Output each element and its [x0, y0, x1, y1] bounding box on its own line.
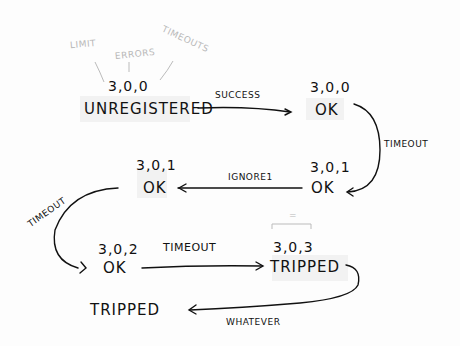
node-unregistered-tuple: 3,0,0 [108, 79, 149, 93]
edge-label-success: SUCCESS [215, 91, 260, 100]
node-tripped-2: TRIPPED [90, 303, 160, 318]
node-ok-3-tuple: 3,0,1 [136, 158, 177, 172]
node-tripped-1: TRIPPED [270, 260, 340, 275]
limit-pointer-icon [95, 62, 104, 82]
edge-label-ignore: IGNORE1 [228, 173, 273, 182]
node-ok-4: OK [103, 261, 127, 276]
edge-timeout-1 [348, 104, 380, 192]
annotation-equals: = [289, 211, 297, 220]
edge-timeout-3 [142, 266, 262, 268]
node-ok-3: OK [143, 181, 167, 196]
edge-label-timeout-1: TIMEOUT [384, 140, 428, 149]
node-ok-2-tuple: 3,0,1 [310, 160, 351, 174]
node-unregistered: UNREGISTERED [84, 102, 214, 117]
node-tripped-1-tuple: 3,0,3 [273, 240, 314, 254]
edge-label-timeout-3: TIMEOUT [163, 242, 216, 253]
node-ok-1: OK [315, 103, 339, 118]
state-diagram: LIMIT ERRORS TIMEOUTS = 3,0,0 UNREGISTER… [0, 0, 460, 346]
node-ok-4-tuple: 3,0,2 [98, 242, 139, 256]
edge-label-whatever: WHATEVER [226, 318, 280, 327]
node-ok-2: OK [311, 181, 335, 196]
node-ok-1-tuple: 3,0,0 [310, 80, 351, 94]
